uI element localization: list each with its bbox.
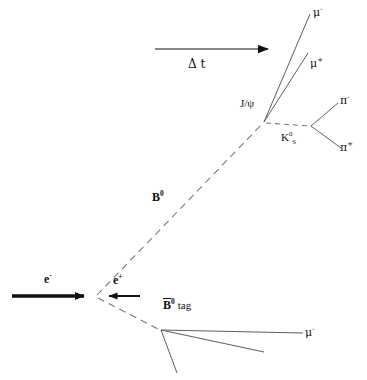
label-pi-plus: π+: [340, 142, 353, 153]
label-e-plus: e+: [113, 274, 123, 286]
label-e-minus: e-: [44, 273, 52, 285]
label-mu-minus-upper: μ-: [313, 7, 322, 18]
tag-track-mu-minus: [161, 330, 303, 333]
bbar-tag-flight-path: [98, 298, 160, 330]
ks-flight-path: [266, 123, 310, 126]
particle-decay-diagram: μ- μ+ J/ψ K0S π- π+ Δ t B0 e- e+ B0tag μ…: [0, 0, 367, 380]
bbar-tag-word: tag: [178, 299, 191, 311]
bbar-overline-symbol: B: [163, 298, 171, 312]
label-bbar-tag: B0tag: [163, 298, 191, 312]
pi-minus-track: [311, 103, 338, 126]
label-b-zero: B0: [152, 191, 164, 203]
label-mu-plus-upper: μ+: [310, 58, 323, 69]
label-jpsi: J/ψ: [240, 98, 254, 109]
tag-track-lower: [161, 330, 177, 373]
label-pi-minus: π-: [340, 95, 350, 106]
label-mu-minus-lower: μ-: [305, 327, 314, 338]
label-delta-t: Δ t: [188, 58, 205, 70]
label-ks: K0S: [281, 132, 296, 143]
b-zero-flight-path: [97, 123, 263, 295]
tag-track-middle: [161, 330, 264, 352]
mu-plus-track-upper: [264, 53, 308, 122]
mu-minus-track-upper: [264, 14, 310, 122]
pi-plus-track: [311, 126, 341, 148]
